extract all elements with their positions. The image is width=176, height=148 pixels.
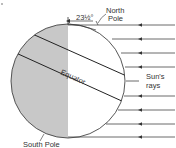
earth-tilt-diagram: 23½° North Pole Equator Sun's rays South… [0,0,176,148]
sun-rays-label-2: rays [146,81,160,90]
angle-label: 23½° [76,13,94,22]
sun-rays-label: Sun's [146,72,165,81]
corner-mark [1,3,3,5]
north-pole-label-2: Pole [108,14,123,23]
north-pole-leader [98,14,106,23]
night-side [0,0,68,148]
south-pole-label: South Pole [23,140,60,148]
